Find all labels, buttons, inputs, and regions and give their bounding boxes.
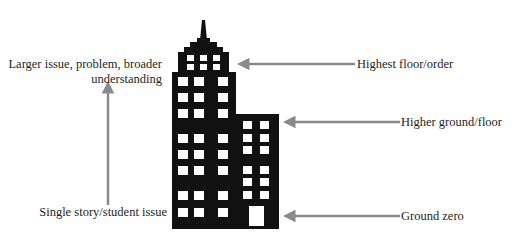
label-ground-zero: Ground zero bbox=[401, 209, 464, 223]
building-icon bbox=[172, 20, 279, 229]
label-highest-floor: Highest floor/order bbox=[357, 57, 453, 71]
label-single-story: Single story/student issue bbox=[39, 205, 167, 219]
label-higher-ground: Higher ground/floor bbox=[401, 115, 502, 129]
label-larger-issue-line1: Larger issue, problem, broader bbox=[8, 57, 162, 71]
label-larger-issue-line2: understanding bbox=[91, 72, 162, 86]
